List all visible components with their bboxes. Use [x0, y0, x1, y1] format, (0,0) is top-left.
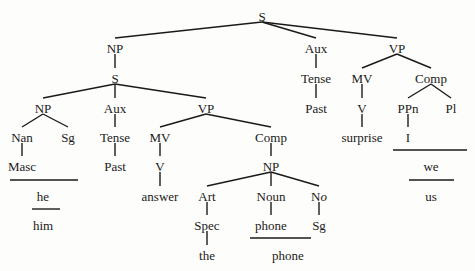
- tree-edge: [431, 84, 451, 98]
- tree-node-the: the: [199, 248, 215, 263]
- tree-node-masc: Masc: [8, 159, 36, 174]
- tree-edge: [43, 114, 68, 127]
- tree-edge: [22, 114, 43, 127]
- tree-node-ppn: PPn: [398, 101, 419, 116]
- tree-node-he: he: [37, 189, 50, 204]
- tree-node-no: No: [311, 189, 327, 204]
- tree-node-root-S: S: [258, 9, 265, 24]
- tree-node-np-emb: NP: [35, 101, 52, 116]
- tree-edge: [207, 172, 271, 186]
- tree-node-past-top: Past: [305, 101, 327, 116]
- tree-node-mv-emb: MV: [150, 130, 172, 145]
- tree-node-v-top: V: [357, 101, 367, 116]
- tree-node-tense-top: Tense: [301, 71, 331, 86]
- tree-node-answer: answer: [142, 189, 179, 204]
- tree-node-comp-emb: Comp: [255, 130, 287, 145]
- tree-node-art: Art: [198, 189, 216, 204]
- tree-node-noun: Noun: [257, 189, 286, 204]
- tree-node-we: we: [423, 159, 438, 174]
- tree-node-spec: Spec: [194, 218, 220, 233]
- tree-node-aux-top: Aux: [305, 41, 328, 56]
- tree-node-aux-emb: Aux: [104, 101, 127, 116]
- tree-edge: [160, 114, 206, 127]
- tree-node-vp-emb: VP: [198, 101, 215, 116]
- tree-edge: [115, 22, 262, 38]
- tree-node-sg2: Sg: [312, 218, 326, 233]
- tree-node-tense-emb: Tense: [100, 130, 130, 145]
- tree-node-np-comp: NP: [263, 159, 280, 174]
- tree-node-nan: Nan: [11, 130, 33, 145]
- tree-node-phone-n: phone: [255, 218, 287, 233]
- tree-node-sg1: Sg: [61, 130, 75, 145]
- tree-edge: [262, 22, 397, 38]
- tree-node-pl: Pl: [446, 101, 457, 116]
- tree-node-surprise: surprise: [341, 130, 382, 145]
- tree-edge: [115, 84, 206, 98]
- tree-edge: [206, 114, 271, 127]
- tree-node-us: us: [425, 189, 437, 204]
- tree-node-comp-top: Comp: [415, 71, 447, 86]
- tree-edge: [262, 22, 316, 38]
- tree-edge: [271, 172, 319, 186]
- tree-node-i: I: [406, 130, 410, 145]
- tree-node-phone-out: phone: [272, 248, 304, 263]
- tree-node-mv-top: MV: [352, 71, 374, 86]
- tree-edge: [362, 54, 397, 68]
- tree-node-past-emb: Past: [104, 159, 126, 174]
- tree-edge: [397, 54, 431, 68]
- tree-svg: SNPSAuxVPNPAuxVPNanSgTenseMVCompMascPast…: [0, 0, 475, 271]
- tree-edge: [408, 84, 431, 98]
- tree-node-v-emb: V: [155, 159, 165, 174]
- tree-edge: [43, 84, 115, 98]
- tree-node-s-emb: S: [111, 71, 118, 86]
- tree-node-him: him: [33, 218, 53, 233]
- tree-node-vp-top: VP: [389, 41, 406, 56]
- tree-node-np-top: NP: [107, 41, 124, 56]
- syntax-tree-diagram: SNPSAuxVPNPAuxVPNanSgTenseMVCompMascPast…: [0, 0, 475, 271]
